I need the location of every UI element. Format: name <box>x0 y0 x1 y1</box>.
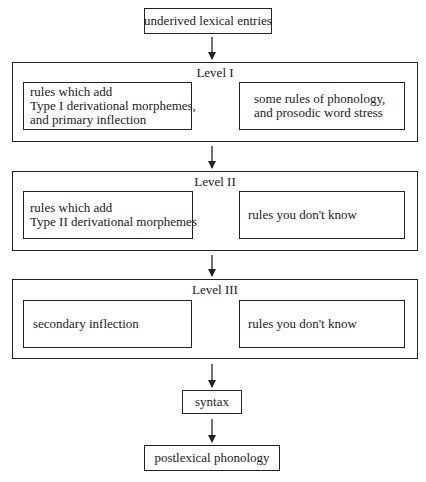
level-3-left-box: secondary inflection <box>23 300 192 348</box>
level-3-right-box: rules you don't know <box>239 300 405 348</box>
postlexical-phonology-label: postlexical phonology <box>154 451 269 465</box>
level-3-right-line-1: rules you don't know <box>248 317 404 331</box>
level-1-left-line-1: rules which add <box>30 85 191 99</box>
level-1-right-line-2: and prosodic word stress <box>254 106 404 120</box>
level-1-title: Level I <box>13 65 417 81</box>
underived-lexical-entries-label: underived lexical entries <box>144 14 272 28</box>
level-3-left-line-1: secondary inflection <box>33 317 191 331</box>
level-2-title: Level II <box>13 174 417 190</box>
syntax-label: syntax <box>195 395 229 409</box>
level-2-right-line-1: rules you don't know <box>248 208 404 222</box>
level-1-right-line-1: some rules of phonology, <box>254 92 404 106</box>
level-2-left-line-1: rules which add <box>30 201 192 215</box>
level-3-title: Level III <box>13 282 417 298</box>
level-1-left-box: rules which add Type I derivational morp… <box>23 82 192 130</box>
level-1-left-line-3: and primary inflection <box>30 113 191 127</box>
syntax-box: syntax <box>182 390 242 414</box>
level-2-right-box: rules you don't know <box>239 191 405 239</box>
postlexical-phonology-box: postlexical phonology <box>144 445 280 471</box>
underived-lexical-entries-box: underived lexical entries <box>144 8 272 34</box>
level-2-left-box: rules which add Type II derivational mor… <box>23 191 193 239</box>
level-2-left-line-2: Type II derivational morphemes <box>30 215 192 229</box>
level-1-left-line-2: Type I derivational morphemes, <box>30 99 191 113</box>
level-1-right-box: some rules of phonology, and prosodic wo… <box>239 82 405 130</box>
